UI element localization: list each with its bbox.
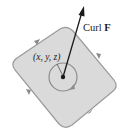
point-label: (x, y, z) (33, 52, 60, 63)
boundary-arrow-icon (26, 89, 31, 95)
diagram-canvas: Curl F (x, y, z) (0, 0, 132, 130)
curl-vector-arrowhead-icon (79, 6, 85, 17)
curl-label: Curl F (83, 22, 111, 33)
point-dot (61, 75, 65, 79)
curl-diagram: Curl F (x, y, z) (0, 0, 132, 130)
boundary-arrow-icon (96, 53, 101, 59)
